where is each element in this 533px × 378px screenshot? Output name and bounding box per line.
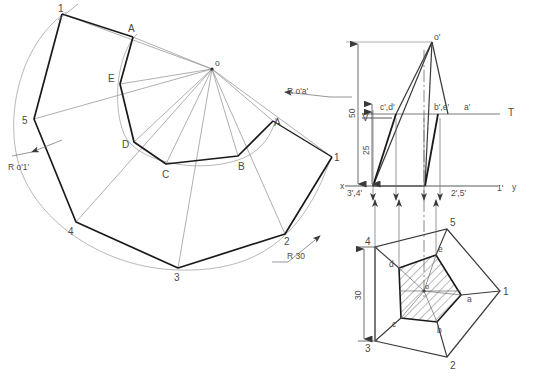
plan-point-e: e <box>438 244 443 254</box>
development-apex-dot <box>210 67 213 70</box>
elevation-base-far-right-label: 1' <box>497 183 504 193</box>
development-point-3: 3 <box>174 272 180 283</box>
development-point-C: C <box>162 169 169 180</box>
development-point-1b: 1 <box>334 152 340 163</box>
development-point-A-right: A <box>274 117 281 128</box>
elevation-view: o' V T x y 50 25 3',4' 2',5' 1' c',d' b'… <box>340 32 517 200</box>
drawing-svg: o 1 5 4 3 2 1 A E D C B A R o'a' R o'1' … <box>0 0 533 378</box>
dimension-30-label: 30 <box>353 290 363 300</box>
radius-label-r-oa: R o'a' <box>287 86 309 96</box>
elevation-apex-label: o' <box>434 32 441 42</box>
elevation-cut-mid-label: b',e' <box>434 102 449 112</box>
plan-point-b: b <box>437 325 442 335</box>
plan-point-d: d <box>389 259 394 269</box>
dimension-50-label: 50 <box>347 108 357 118</box>
development-point-2: 2 <box>284 236 290 247</box>
plan-point-3: 3 <box>365 343 371 354</box>
elevation-base-left-label: 3',4' <box>347 188 362 198</box>
cut-section-hatched <box>399 255 461 322</box>
label-plane-t: T <box>508 107 514 118</box>
development-point-E: E <box>108 73 115 84</box>
label-axis-x: x <box>340 181 345 191</box>
development-point-A-top: A <box>128 23 135 34</box>
leader-r-o1 <box>12 140 62 156</box>
plan-point-1: 1 <box>503 286 509 297</box>
development-point-D: D <box>122 139 129 150</box>
plan-point-a: a <box>467 294 472 304</box>
radius-label-r-30: R 30 <box>287 251 305 261</box>
development-point-B: B <box>238 161 245 172</box>
plan-point-5: 5 <box>450 217 456 228</box>
dimension-25-label: 25 <box>361 145 371 155</box>
plan-point-c: c <box>392 319 397 329</box>
plan-point-4: 4 <box>365 236 371 247</box>
label-plane-v: V <box>362 112 369 123</box>
engineering-drawing-canvas: o 1 5 4 3 2 1 A E D C B A R o'a' R o'1' … <box>0 0 533 378</box>
plan-point-2: 2 <box>450 360 456 371</box>
development-point-4: 4 <box>68 226 74 237</box>
elevation-cut-right-label: a' <box>464 102 471 112</box>
development-point-5: 5 <box>22 115 28 126</box>
elevation-cut-left-label: c',d' <box>380 102 395 112</box>
radius-label-r-o1: R o'1' <box>8 162 30 172</box>
label-axis-y: y <box>512 182 517 192</box>
plan-view: 3 4 5 2 1 a b c d e o 30 <box>353 200 509 371</box>
development-apex-label: o <box>215 58 220 68</box>
development-point-1: 1 <box>58 3 64 14</box>
plan-centre-label: o <box>425 282 429 291</box>
outer-construction-arc <box>14 12 330 270</box>
elevation-base-right-label: 2',5' <box>451 188 466 198</box>
development-view: o 1 5 4 3 2 1 A E D C B A R o'a' R o'1' … <box>8 3 352 283</box>
development-outer-polyline <box>34 14 332 268</box>
